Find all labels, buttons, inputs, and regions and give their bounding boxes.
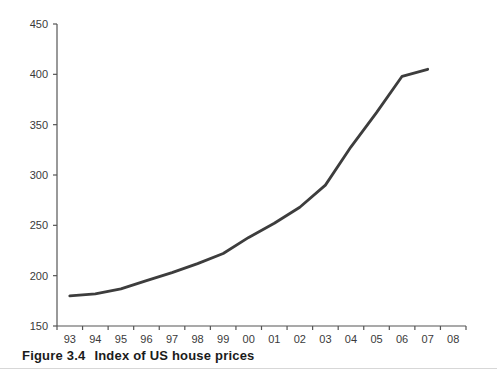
x-tick-label: 05 bbox=[370, 333, 382, 345]
x-tick-label: 00 bbox=[243, 333, 255, 345]
y-tick-label: 450 bbox=[30, 18, 48, 30]
y-tick-label: 150 bbox=[30, 320, 48, 332]
x-tick-label: 03 bbox=[319, 333, 331, 345]
figure-caption-label: Figure 3.4 bbox=[22, 348, 85, 363]
figure-caption: Figure 3.4Index of US house prices bbox=[22, 348, 255, 363]
y-tick-label: 250 bbox=[30, 219, 48, 231]
x-tick-label: 93 bbox=[64, 333, 76, 345]
house-price-index-line bbox=[70, 69, 428, 295]
y-tick-label: 400 bbox=[30, 68, 48, 80]
x-tick-label: 94 bbox=[89, 333, 101, 345]
y-tick-label: 300 bbox=[30, 169, 48, 181]
x-tick-label: 04 bbox=[345, 333, 357, 345]
x-tick-label: 01 bbox=[268, 333, 280, 345]
y-tick-label: 200 bbox=[30, 270, 48, 282]
x-tick-label: 06 bbox=[396, 333, 408, 345]
page-rule-divider bbox=[0, 368, 497, 369]
x-tick-label: 08 bbox=[447, 333, 459, 345]
house-price-line-chart: 1502002503003504004509394959697989900010… bbox=[0, 0, 497, 345]
x-tick-label: 97 bbox=[166, 333, 178, 345]
x-tick-label: 02 bbox=[294, 333, 306, 345]
y-tick-label: 350 bbox=[30, 119, 48, 131]
x-tick-label: 07 bbox=[422, 333, 434, 345]
figure-caption-title: Index of US house prices bbox=[94, 348, 254, 363]
x-tick-label: 95 bbox=[115, 333, 127, 345]
x-tick-label: 96 bbox=[140, 333, 152, 345]
figure-3-4-container: 1502002503003504004509394959697989900010… bbox=[0, 0, 497, 375]
x-tick-label: 99 bbox=[217, 333, 229, 345]
x-tick-label: 98 bbox=[191, 333, 203, 345]
